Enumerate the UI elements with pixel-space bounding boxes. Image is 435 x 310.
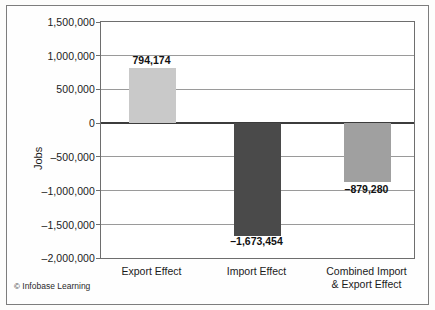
y-tick-label-neg500000: –500,000 [50, 151, 95, 163]
x-axis-label-import-effect: Import Effect [201, 265, 312, 278]
y-tick-mark-neg500000 [96, 156, 101, 157]
y-tick-label-neg2000000: –2,000,000 [41, 252, 95, 264]
y-tick-label-neg1500000: –1,500,000 [41, 219, 95, 231]
y-tick-mark-1000000 [96, 55, 101, 56]
y-tick-label-0: 0 [89, 117, 95, 129]
y-tick-mark-500000 [96, 89, 101, 90]
bar-combined-import-export-effect[interactable] [344, 123, 391, 182]
bar-value-import-effect: –1,673,454 [213, 235, 300, 247]
chart-figure: Jobs 1,500,000 1,000,000 500,000 0 –500,… [0, 0, 435, 310]
x-axis-label-export-effect: Export Effect [96, 265, 207, 278]
y-tick-mark-0 [96, 123, 101, 124]
x-axis-label-combined-line1: Combined Import [326, 265, 407, 277]
y-tick-label-1000000: 1,000,000 [47, 50, 95, 62]
y-tick-label-1500000: 1,500,000 [47, 16, 95, 28]
x-axis-label-combined-line2: & Export Effect [332, 278, 402, 290]
y-axis-title-container: Jobs [18, 118, 34, 178]
bar-value-export-effect: 794,174 [108, 54, 195, 66]
y-tick-mark-neg2000000 [96, 258, 101, 259]
y-tick-mark-neg1500000 [96, 224, 101, 225]
y-axis-title: Jobs [32, 147, 44, 170]
y-tick-mark-neg1000000 [96, 190, 101, 191]
y-tick-mark-1500000 [96, 22, 101, 23]
copyright-text: Infobase Learning [22, 281, 90, 291]
x-axis-label-combined-import-export-effect: Combined Import & Export Effect [311, 265, 422, 291]
copyright-credit: © Infobase Learning [14, 281, 90, 291]
bar-export-effect[interactable] [129, 68, 176, 123]
bar-import-effect[interactable] [234, 123, 281, 236]
copyright-icon: © [14, 282, 20, 291]
y-tick-label-neg1000000: –1,000,000 [41, 185, 95, 197]
bar-value-combined-import-export-effect: –879,280 [323, 183, 410, 195]
y-tick-label-500000: 500,000 [56, 83, 95, 95]
